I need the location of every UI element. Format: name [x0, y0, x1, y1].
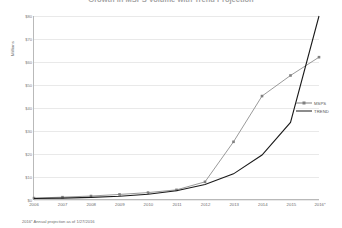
legend-swatch-icon: [296, 100, 312, 106]
data-point-marker: [118, 193, 121, 196]
legend-item[interactable]: MSPS: [296, 99, 340, 107]
x-tick-label: 2009: [115, 202, 125, 207]
data-point-marker: [261, 95, 264, 98]
x-tick-label: 2006: [29, 202, 39, 207]
y-tick-label: $10: [10, 175, 32, 180]
legend-swatch-icon: [296, 108, 312, 114]
data-point-marker: [232, 141, 235, 144]
gridline: [34, 200, 319, 201]
legend-label: MSPS: [314, 101, 326, 106]
y-tick-label: $60: [10, 60, 32, 65]
x-tick-label: 2012: [201, 202, 211, 207]
chart-footnote: 2016* Annual projection as of 1/27/2016: [22, 219, 95, 224]
data-point-marker: [318, 56, 321, 59]
legend-item[interactable]: TREND: [296, 107, 340, 115]
y-tick-label: $50: [10, 83, 32, 88]
x-tick-label: 2011: [172, 202, 181, 207]
series-line: [34, 57, 319, 198]
legend-label: TREND: [314, 109, 329, 114]
data-point-marker: [147, 191, 150, 194]
data-point-marker: [289, 74, 292, 77]
x-tick-label: 2008: [86, 202, 96, 207]
chart-title: Growth in MSPS Volume with Trend Project…: [0, 0, 342, 4]
y-tick-label: $30: [10, 129, 32, 134]
y-tick-label: $20: [10, 152, 32, 157]
chart-legend: MSPSTREND: [296, 99, 340, 115]
y-tick-label: $70: [10, 37, 32, 42]
series-lines: [34, 16, 319, 199]
chart-container: Growth in MSPS Volume with Trend Project…: [0, 0, 342, 228]
x-tick-label: 2013: [229, 202, 239, 207]
x-tick-label: 2016*: [314, 202, 325, 207]
y-tick-label: $40: [10, 106, 32, 111]
x-tick-label: 2010: [144, 202, 154, 207]
series-line: [34, 16, 319, 199]
data-point-marker: [204, 181, 207, 184]
x-tick-label: 2014: [258, 202, 268, 207]
y-tick-label: $80: [10, 14, 32, 19]
plot-area: $0$10$20$30$40$50$60$70$80 2006200720082…: [33, 16, 319, 200]
x-tick-label: 2015: [287, 202, 297, 207]
x-tick-label: 2007: [58, 202, 68, 207]
